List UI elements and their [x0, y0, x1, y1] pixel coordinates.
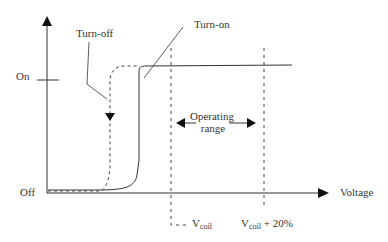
x-axis-arrow-icon: [318, 188, 329, 198]
turn-off-leader: [87, 42, 107, 99]
operating-range-left-arrow-icon: [176, 118, 185, 128]
vcoil-label: Vcoil: [192, 217, 212, 233]
operating-range-right-arrow-icon: [247, 118, 256, 128]
y-axis-arrow-icon: [42, 16, 52, 26]
vcoil-plus-sub: coil: [249, 222, 261, 231]
vcoil-marker-line: [171, 48, 190, 225]
y-label-on: On: [16, 70, 29, 82]
vcoil-plus-label: Vcoil + 20%: [241, 217, 293, 233]
vcoil-sub: coil: [200, 222, 212, 231]
turn-off-arrow-icon: [105, 113, 115, 121]
turn-off-curve: [48, 66, 140, 191]
turn-off-label: Turn-off: [76, 27, 113, 39]
turn-on-label: Turn-on: [194, 18, 230, 30]
operating-range-line2: range: [196, 122, 230, 134]
x-axis-label: Voltage: [340, 186, 373, 198]
vcoil-plus-suffix: + 20%: [261, 217, 293, 229]
vcoil-plus-main: V: [241, 217, 249, 229]
turn-on-curve: [48, 65, 292, 190]
y-label-off: Off: [20, 186, 35, 198]
operating-range-line1: Operating: [190, 110, 230, 122]
turn-on-leader: [144, 27, 183, 78]
vcoil-main: V: [192, 217, 200, 229]
operating-range-label: Operating range: [196, 110, 230, 134]
